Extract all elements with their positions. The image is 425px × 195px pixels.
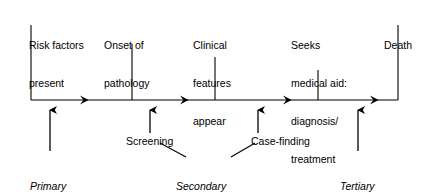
prevention-emphasis-tertiary: Tertiary [340, 180, 389, 193]
milestone-label-risk-factors: Risk factors present [29, 14, 84, 115]
intervention-label-screening: Screening [126, 135, 173, 148]
prevention-label-secondary: Secondary prevention [176, 155, 226, 195]
milestone-label-death: Death [384, 14, 412, 77]
prevention-timeline-diagram: Risk factors present Onset of pathology … [0, 0, 425, 195]
prevention-emphasis-secondary: Secondary [176, 180, 226, 193]
intervention-label-case-finding: Case-finding [251, 135, 310, 148]
prevention-label-primary: Primary prevention [30, 155, 79, 195]
prevention-label-tertiary: Tertiary prevention [340, 155, 389, 195]
milestone-label-clinical-features: Clinical features appear [193, 14, 231, 153]
prevention-emphasis-primary: Primary [30, 180, 79, 193]
milestone-label-onset-of-pathology: Onset of pathology [104, 14, 150, 115]
milestone-label-seeks-medical-aid: Seeks medical aid: diagnosis/ treatment [291, 14, 347, 190]
